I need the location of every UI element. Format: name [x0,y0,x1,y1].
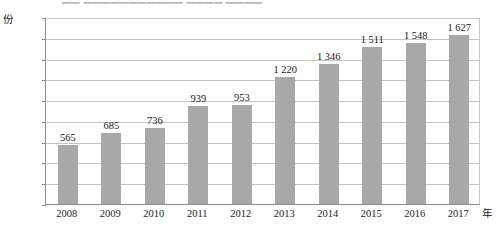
bar-value-label: 1 627 [447,22,471,33]
bar: 939 [188,106,208,204]
bar: 1 511 [362,47,382,204]
bar-value-label: 1 346 [317,51,341,62]
bar: 736 [145,128,165,204]
bar: 1 548 [406,43,426,204]
x-axis-tick-label: 2014 [306,208,350,219]
x-axis-tick-label: 2012 [219,208,263,219]
bar-value-label: 953 [234,92,250,103]
x-axis-tick-label: 2013 [262,208,306,219]
bar: 685 [101,133,121,204]
bar-value-label: 1 548 [404,30,428,41]
y-axis-tick [42,101,46,102]
y-axis-tick [42,122,46,123]
bar-chart: 份 5656857369399531 2201 3461 5111 5481 6… [0,0,498,237]
y-axis-tick [42,60,46,61]
bar: 1 220 [275,77,295,204]
x-axis-tick-label: 2015 [349,208,393,219]
y-axis-tick [42,80,46,81]
x-axis-tick-label: 2011 [175,208,219,219]
bar-value-label: 1 220 [273,64,297,75]
y-axis-unit-label: 份 [3,14,13,25]
bar: 1 346 [319,64,339,204]
y-axis-tick [42,184,46,185]
x-axis-tick-label: 2009 [88,208,132,219]
x-axis-tick-label: 2017 [436,208,480,219]
x-axis-tick-label: 2008 [45,208,89,219]
bar: 1 627 [449,35,469,204]
plot-area: 5656857369399531 2201 3461 5111 5481 627 [45,18,480,205]
bar-value-label: 1 511 [361,34,384,45]
y-axis-tick [42,18,46,19]
y-axis-tick [42,39,46,40]
y-axis-tick [42,143,46,144]
bar: 565 [58,145,78,204]
bar: 953 [232,105,252,204]
x-axis-unit-label: 年 [482,208,492,219]
x-axis-tick-label: 2016 [393,208,437,219]
bar-value-label: 939 [190,93,206,104]
bar-value-label: 565 [60,132,76,143]
gridline [46,18,479,19]
y-axis-tick [42,205,46,206]
bar-value-label: 736 [147,115,163,126]
bar-value-label: 685 [103,120,119,131]
x-axis-tick-label: 2010 [132,208,176,219]
y-axis-tick [42,163,46,164]
